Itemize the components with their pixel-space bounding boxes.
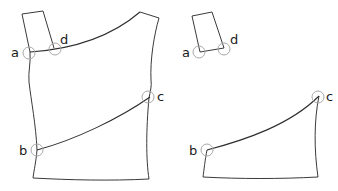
label-b-right: b [189,143,197,158]
label-c: c [157,89,164,104]
label-d-right: d [230,32,238,47]
label-d: d [60,32,68,47]
label-b: b [19,143,27,158]
right-diagonal-bc [207,96,319,150]
left-shoulder [140,12,159,18]
left-neckline-curve [30,12,140,52]
left-hem [33,178,149,180]
label-a: a [11,45,19,60]
label-a-right: a [182,45,190,60]
marker-c [142,91,154,103]
right-lower-piece [203,96,319,179]
left-diagonal-bc [37,97,150,150]
left-strap-outline [22,11,54,48]
label-c-right: c [326,89,333,104]
right-figure: a d c b [182,12,333,179]
pattern-diagram: a d c b a d c b [0,0,338,191]
left-figure: a d c b [11,11,164,180]
